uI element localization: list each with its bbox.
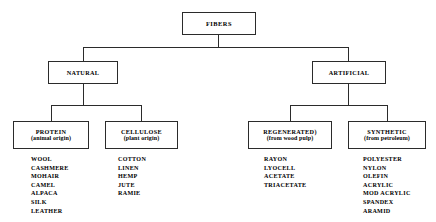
node-protein: PROTEIN (animal origin)	[13, 121, 89, 149]
list-item: CASHMERE	[31, 164, 69, 173]
list-item: NYLON	[363, 164, 411, 173]
list-cellulose-fibers: COTTONLINENHEMPJUTERAMIE	[118, 155, 146, 198]
list-item: LYOCELL	[264, 164, 306, 173]
list-item: LINEN	[118, 164, 146, 173]
node-natural-title: NATURAL	[67, 69, 100, 76]
list-item: COTTON	[118, 155, 146, 164]
node-synthetic-title: SYNTHETIC	[367, 128, 407, 135]
list-item: ACRYLIC	[363, 181, 411, 190]
node-regenerated-subtitle: (from wood pulp)	[267, 135, 314, 142]
connector-natural-bus	[51, 105, 142, 106]
node-artificial: ARTIFICIAL	[312, 61, 386, 84]
connector-level1-bus	[83, 47, 348, 48]
connector-to-synthetic	[387, 105, 388, 121]
list-item: SILK	[31, 198, 69, 207]
node-fibers: FIBERS	[182, 12, 256, 35]
list-item: JUTE	[118, 181, 146, 190]
fibers-classification-diagram: FIBERS NATURAL ARTIFICIAL PROTEIN (anima…	[0, 0, 436, 222]
list-synthetic-fibers: POLYESTERNYLONOLEFINACRYLICMOD ACRYLICSP…	[363, 155, 411, 215]
node-cellulose: CELLULOSE (plant origin)	[105, 121, 178, 149]
list-item: LEATHER	[31, 207, 69, 216]
connector-to-artificial	[348, 47, 349, 61]
list-item: MOHAIR	[31, 172, 69, 181]
node-fibers-title: FIBERS	[206, 20, 232, 28]
node-regenerated-title: REGENERATED)	[263, 128, 317, 135]
connector-artificial-bus	[290, 105, 387, 106]
node-protein-subtitle: (animal origin)	[31, 135, 71, 142]
node-protein-title: PROTEIN	[36, 128, 67, 135]
list-item: RAMIE	[118, 189, 146, 198]
list-item: OLEFIN	[363, 172, 411, 181]
connector-to-natural	[83, 47, 84, 61]
node-artificial-title: ARTIFICIAL	[329, 69, 369, 76]
list-item: ACETATE	[264, 172, 306, 181]
node-regenerated: REGENERATED) (from wood pulp)	[248, 121, 332, 149]
connector-artificial-stem	[348, 84, 349, 105]
node-natural: NATURAL	[48, 61, 118, 84]
list-item: SPANDEX	[363, 198, 411, 207]
connector-to-cellulose	[141, 105, 142, 121]
list-protein-fibers: WOOLCASHMEREMOHAIRCAMELALPACASILKLEATHER	[31, 155, 69, 215]
list-item: MOD ACRYLIC	[363, 189, 411, 198]
node-cellulose-subtitle: (plant origin)	[124, 135, 160, 142]
node-synthetic: SYNTHETIC (from petroleum)	[348, 121, 426, 149]
connector-to-regenerated	[290, 105, 291, 121]
list-item: RAYON	[264, 155, 306, 164]
list-item: ALPACA	[31, 189, 69, 198]
connector-to-protein	[51, 105, 52, 121]
node-synthetic-subtitle: (from petroleum)	[364, 135, 410, 142]
connector-natural-stem	[83, 84, 84, 105]
list-item: CAMEL	[31, 181, 69, 190]
list-item: WOOL	[31, 155, 69, 164]
list-item: HEMP	[118, 172, 146, 181]
list-item: TRIACETATE	[264, 181, 306, 190]
node-cellulose-title: CELLULOSE	[121, 128, 162, 135]
list-regenerated-fibers: RAYONLYOCELLACETATETRIACETATE	[264, 155, 306, 189]
list-item: ARAMID	[363, 207, 411, 216]
list-item: POLYESTER	[363, 155, 411, 164]
